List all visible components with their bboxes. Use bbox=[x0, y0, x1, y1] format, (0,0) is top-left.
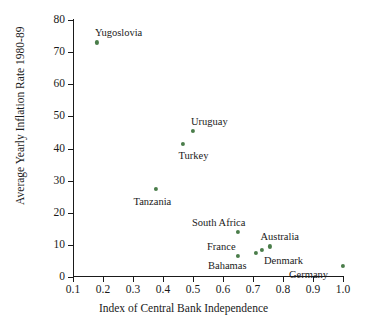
x-axis-tick-label: 0.4 bbox=[156, 284, 170, 296]
y-axis-tick bbox=[68, 116, 73, 117]
x-axis-tick-label: 0.2 bbox=[96, 284, 110, 296]
data-point bbox=[254, 251, 258, 255]
data-point bbox=[153, 187, 157, 191]
data-point bbox=[267, 244, 271, 248]
data-point-label: Turkey bbox=[179, 151, 209, 162]
y-axis-tick bbox=[68, 52, 73, 53]
data-point-label: Bahamas bbox=[208, 261, 247, 272]
x-axis-tick bbox=[223, 277, 224, 282]
data-point-label: South Africa bbox=[192, 218, 245, 229]
y-axis-tick bbox=[68, 84, 73, 85]
y-axis-tick-label: 70 bbox=[54, 46, 66, 58]
data-point bbox=[341, 264, 345, 268]
data-point bbox=[236, 254, 240, 258]
y-axis-line bbox=[73, 19, 74, 278]
x-axis-tick-label: 0.7 bbox=[246, 284, 260, 296]
data-point bbox=[236, 230, 240, 234]
x-axis-tick bbox=[343, 277, 344, 282]
x-axis-title: Index of Central Bank Independence bbox=[0, 303, 367, 315]
x-axis-tick bbox=[193, 277, 194, 282]
x-axis-tick-label: 0.9 bbox=[306, 284, 320, 296]
x-axis-tick-label: 1.0 bbox=[336, 284, 350, 296]
x-axis-tick-label: 0.6 bbox=[216, 284, 230, 296]
x-axis-tick bbox=[283, 277, 284, 282]
data-point-label: Australia bbox=[261, 232, 300, 243]
y-axis-tick-label: 30 bbox=[54, 175, 66, 187]
x-axis-tick-label: 0.8 bbox=[276, 284, 290, 296]
data-point-label: Tanzania bbox=[134, 197, 172, 208]
plot-area: 01020304050607080 0.10.20.30.40.50.60.70… bbox=[73, 20, 343, 277]
x-axis-tick bbox=[133, 277, 134, 282]
data-point bbox=[191, 129, 195, 133]
scatter-chart-figure: 01020304050607080 0.10.20.30.40.50.60.70… bbox=[0, 0, 367, 330]
x-axis-tick bbox=[73, 277, 74, 282]
y-axis-tick bbox=[68, 20, 73, 21]
y-axis-tick-label: 20 bbox=[54, 207, 66, 219]
y-axis-tick bbox=[68, 149, 73, 150]
x-axis-tick-label: 0.5 bbox=[186, 284, 200, 296]
y-axis-tick-label: 60 bbox=[54, 79, 66, 91]
data-point bbox=[260, 248, 264, 252]
data-point-label: Yugoslovia bbox=[95, 28, 142, 39]
y-axis-tick bbox=[68, 245, 73, 246]
data-point-label: Germany bbox=[289, 270, 328, 281]
y-axis-title: Average Yearly Inflation Rate 1980-89 bbox=[15, 0, 27, 241]
y-axis-tick-label: 80 bbox=[54, 14, 66, 26]
y-axis-tick-label: 10 bbox=[54, 239, 66, 251]
x-axis-tick-label: 0.1 bbox=[66, 284, 80, 296]
y-axis-tick bbox=[68, 181, 73, 182]
data-point-label: Uruguay bbox=[191, 117, 228, 128]
x-axis-tick bbox=[103, 277, 104, 282]
x-axis-tick bbox=[253, 277, 254, 282]
y-axis-tick-label: 0 bbox=[59, 271, 65, 283]
data-point bbox=[180, 142, 184, 146]
y-axis-tick bbox=[68, 213, 73, 214]
data-point-label: Denmark bbox=[264, 256, 303, 267]
x-axis-tick bbox=[163, 277, 164, 282]
y-axis-tick-label: 40 bbox=[54, 143, 66, 155]
data-point bbox=[95, 40, 99, 44]
y-axis-tick-label: 50 bbox=[54, 111, 66, 123]
x-axis-tick-label: 0.3 bbox=[126, 284, 140, 296]
data-point-label: France bbox=[207, 242, 236, 253]
